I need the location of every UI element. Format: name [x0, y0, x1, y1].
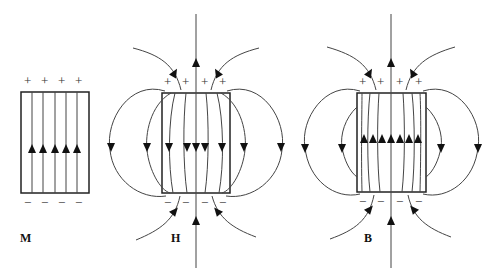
arrow-down-icon: [165, 143, 173, 152]
svg-text:+: +: [58, 73, 65, 88]
arrow-up-icon: [387, 134, 395, 143]
arrow-down-icon: [277, 143, 285, 152]
panel-label-b: B: [364, 231, 372, 245]
svg-text:−: −: [24, 195, 31, 210]
arrow-up-icon: [73, 144, 81, 153]
arrow-down-icon: [192, 143, 200, 152]
svg-text:+: +: [359, 74, 366, 89]
panel-h: + + + + − − − − H: [107, 14, 285, 268]
svg-text:+: +: [41, 73, 48, 88]
panel-m: + + + + − − − − M: [20, 73, 89, 245]
magnetization-diagram: + + + + − − − − M: [0, 0, 496, 277]
svg-text:+: +: [377, 74, 384, 89]
arrow-down-icon: [218, 143, 226, 152]
arrow-down-icon: [474, 144, 482, 153]
svg-text:+: +: [164, 74, 171, 89]
svg-text:+: +: [396, 74, 403, 89]
svg-text:−: −: [396, 194, 403, 209]
panel-label-h: H: [171, 231, 181, 245]
svg-text:−: −: [182, 195, 189, 210]
svg-text:−: −: [415, 194, 422, 209]
svg-text:−: −: [377, 194, 384, 209]
svg-text:+: +: [415, 74, 422, 89]
svg-text:−: −: [201, 195, 208, 210]
svg-text:+: +: [219, 74, 226, 89]
minus-charges-m: − − − −: [24, 195, 82, 210]
arrow-up-icon: [192, 58, 200, 67]
h-field-arrows-down: [107, 143, 285, 152]
svg-text:+: +: [24, 73, 31, 88]
arrow-up-icon: [378, 134, 386, 143]
panel-b: + + + + − − − − B: [301, 14, 482, 268]
magnetization-lines: [28, 92, 81, 193]
arrow-down-icon: [107, 143, 115, 152]
svg-text:−: −: [164, 195, 171, 210]
arrow-up-icon: [39, 144, 47, 153]
arrow-down-icon: [338, 144, 346, 153]
plus-charges-m: + + + +: [24, 73, 82, 88]
arrow-up-icon: [387, 216, 395, 225]
svg-text:+: +: [75, 73, 82, 88]
svg-text:+: +: [182, 74, 189, 89]
svg-text:+: +: [201, 74, 208, 89]
svg-text:−: −: [58, 195, 65, 210]
svg-text:−: −: [75, 195, 82, 210]
panel-label-m: M: [20, 231, 31, 245]
arrow-down-icon: [240, 143, 248, 152]
svg-text:−: −: [41, 195, 48, 210]
arrow-up-icon: [192, 216, 200, 225]
arrow-down-icon: [301, 144, 309, 153]
b-field-arrows-inside: [360, 134, 422, 143]
arrow-down-icon: [437, 144, 445, 153]
arrow-down-icon: [143, 143, 151, 152]
arrow-up-icon: [396, 134, 404, 143]
svg-text:−: −: [219, 195, 226, 210]
arrow-up-icon: [51, 144, 59, 153]
arrow-up-icon: [369, 134, 377, 143]
arrow-up-icon: [387, 58, 395, 67]
arrow-up-icon: [28, 144, 36, 153]
svg-text:−: −: [359, 194, 366, 209]
arrow-up-icon: [62, 144, 70, 153]
arrow-up-icon: [405, 134, 413, 143]
